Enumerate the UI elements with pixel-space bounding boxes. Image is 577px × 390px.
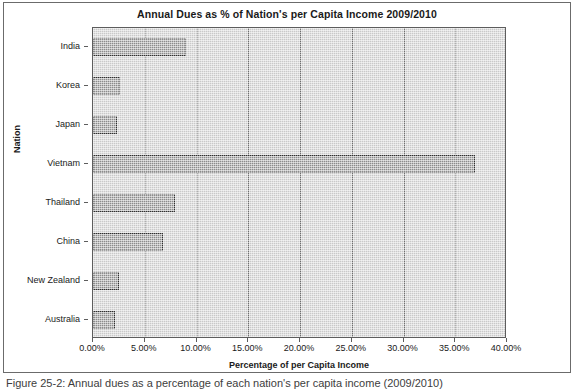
y-axis-tick [84,280,88,281]
y-axis-tick-label: China [0,236,80,246]
x-axis-tick [92,338,93,342]
bar-row [93,222,505,261]
y-axis-tick-label: Korea [0,80,80,90]
bar [93,155,475,173]
bar-row [93,261,505,300]
x-axis-title: Percentage of per Capita Income [92,360,506,370]
x-axis-tick [506,338,507,342]
y-axis-tick-label: New Zealand [0,275,80,285]
y-axis-tick-label: Vietnam [0,158,80,168]
x-axis-tick [351,338,352,342]
bar [93,272,119,290]
bar-row [93,28,505,67]
y-axis-tick [84,241,88,242]
bar [93,194,175,212]
x-axis-tick [454,338,455,342]
y-axis-tick [84,163,88,164]
figure-caption: Figure 25-2: Annual dues as a percentage… [6,377,571,389]
y-axis-tick [84,124,88,125]
y-axis-tick-label: Thailand [0,197,80,207]
bar-row [93,184,505,223]
figure-container: Annual Dues as % of Nation's per Capita … [0,0,577,390]
bar [93,116,117,134]
x-axis: 0.00%5.00%10.00%15.00%20.00%25.00%30.00%… [92,338,506,362]
x-axis-tick-label: 40.00% [476,343,536,353]
x-axis-tick [299,338,300,342]
y-axis-tick [84,202,88,203]
chart-frame: Annual Dues as % of Nation's per Capita … [3,2,571,373]
x-axis-tick [403,338,404,342]
y-axis-tick-label: Australia [0,314,80,324]
plot-area [92,27,506,338]
bar [93,77,120,95]
bar [93,311,115,329]
bar-row [93,67,505,106]
y-axis-tick [84,46,88,47]
bar [93,233,163,251]
x-axis-tick [196,338,197,342]
bar-row [93,106,505,145]
chart-title: Annual Dues as % of Nation's per Capita … [4,8,570,20]
bar-row [93,300,505,338]
y-axis-tick-label: India [0,41,80,51]
x-axis-tick [247,338,248,342]
y-axis-labels: IndiaKoreaJapanVietnamThailandChinaNew Z… [4,27,88,338]
bar [93,38,186,56]
y-axis-tick [84,319,88,320]
x-axis-tick [144,338,145,342]
y-axis-tick-label: Japan [0,119,80,129]
y-axis-tick [84,85,88,86]
bar-row [93,145,505,184]
